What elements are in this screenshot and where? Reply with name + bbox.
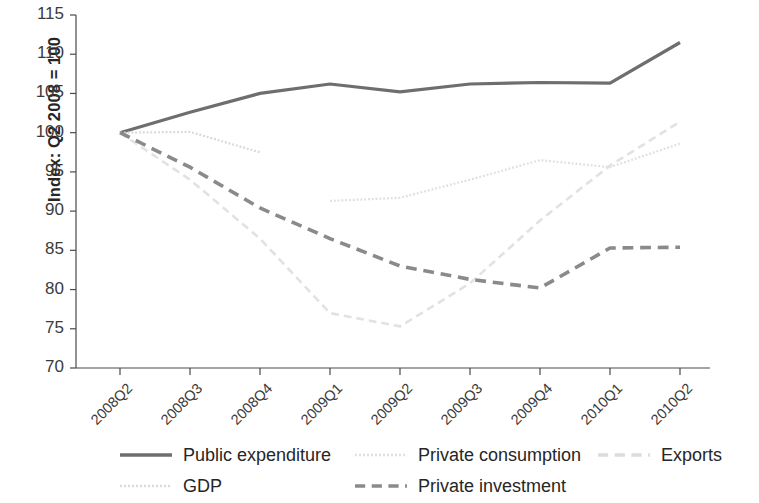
y-tick-label: 110 <box>18 43 64 63</box>
legend-swatch-dotted-icon <box>120 480 172 492</box>
y-tick-label: 85 <box>18 239 64 259</box>
legend-item-private-consumption[interactable]: Private consumption <box>355 442 581 468</box>
legend-swatch-dashed-icon <box>355 480 407 492</box>
series-line <box>120 122 680 327</box>
y-tick-label: 105 <box>18 82 64 102</box>
series-line <box>330 144 680 201</box>
y-tick-label: 95 <box>18 161 64 181</box>
legend-label: Exports <box>661 445 722 466</box>
legend-label: Private consumption <box>418 445 581 466</box>
series-line <box>120 43 680 133</box>
y-tick-label: 90 <box>18 200 64 220</box>
legend-swatch-solid-icon <box>120 449 172 461</box>
legend-item-exports[interactable]: Exports <box>598 442 722 468</box>
legend-swatch-dashed-icon <box>598 449 650 461</box>
y-tick-label: 115 <box>18 4 64 24</box>
legend-label: Public expenditure <box>183 445 331 466</box>
legend-item-private-investment[interactable]: Private investment <box>355 473 566 499</box>
legend-label: GDP <box>183 476 222 497</box>
legend-swatch-dotted-icon <box>355 449 407 461</box>
legend-item-gdp[interactable]: GDP <box>120 473 222 499</box>
y-tick-label: 70 <box>18 357 64 377</box>
chart-figure: Index: Q2 2008 = 100 7075808590951001051… <box>0 0 759 503</box>
legend-item-public-expenditure[interactable]: Public expenditure <box>120 442 331 468</box>
y-tick-label: 80 <box>18 279 64 299</box>
chart-legend: Public expenditure Private consumption E… <box>0 440 759 503</box>
legend-label: Private investment <box>418 476 566 497</box>
y-tick-label: 100 <box>18 122 64 142</box>
series-line <box>120 133 680 288</box>
y-tick-label: 75 <box>18 318 64 338</box>
